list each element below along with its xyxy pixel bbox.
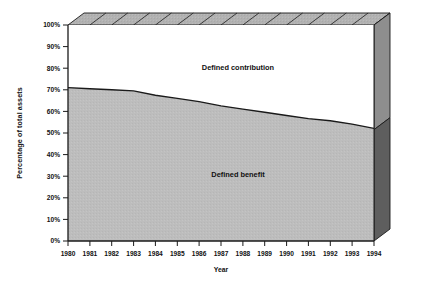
x-tick-label: 1994 [367, 250, 382, 257]
y-tick-label: 20% [47, 194, 60, 201]
x-tick-label: 1980 [61, 250, 76, 257]
y-tick-label: 50% [47, 129, 60, 136]
y-tick-label: 10% [47, 216, 60, 223]
y-tick-label: 40% [47, 151, 60, 158]
y-tick-label: 70% [47, 86, 60, 93]
defined-benefit-label: Defined benefit [211, 170, 265, 179]
x-tick-label: 1990 [279, 250, 294, 257]
x-axis-ticks [68, 241, 374, 246]
stacked-area-chart: 100% 90% 80% 70% 60% 50% 40% 30% 20% 10%… [0, 0, 438, 289]
x-tick-label: 1993 [345, 250, 360, 257]
x-tick-label: 1984 [148, 250, 163, 257]
x-tick-label: 1988 [236, 250, 251, 257]
y-tick-label: 60% [47, 108, 60, 115]
x-tick-label: 1987 [214, 250, 229, 257]
defined-contribution-label: Defined contribution [202, 63, 275, 72]
x-tick-label: 1985 [170, 250, 185, 257]
x-tick-label: 1986 [192, 250, 207, 257]
y-axis-ticks [63, 25, 68, 241]
x-tick-label: 1992 [323, 250, 338, 257]
x-axis-title: Year [214, 266, 229, 273]
y-tick-label: 80% [47, 65, 60, 72]
y-tick-label: 30% [47, 173, 60, 180]
x-axis-tick-labels: 1980 1981 1982 1983 1984 1985 1986 1987 … [61, 250, 382, 257]
x-tick-label: 1991 [301, 250, 316, 257]
chart-depth-right [374, 13, 390, 241]
y-tick-label: 0% [50, 237, 60, 244]
chart-container: 100% 90% 80% 70% 60% 50% 40% 30% 20% 10%… [0, 0, 438, 289]
y-axis-tick-labels: 100% 90% 80% 70% 60% 50% 40% 30% 20% 10%… [43, 21, 60, 244]
y-axis-title: Percentage of total assets [15, 87, 24, 179]
y-tick-label: 90% [47, 43, 60, 50]
x-tick-label: 1989 [257, 250, 272, 257]
x-tick-label: 1981 [83, 250, 98, 257]
chart-depth-top [68, 13, 390, 25]
x-tick-label: 1982 [104, 250, 119, 257]
x-tick-label: 1983 [126, 250, 141, 257]
y-tick-label: 100% [43, 21, 60, 28]
